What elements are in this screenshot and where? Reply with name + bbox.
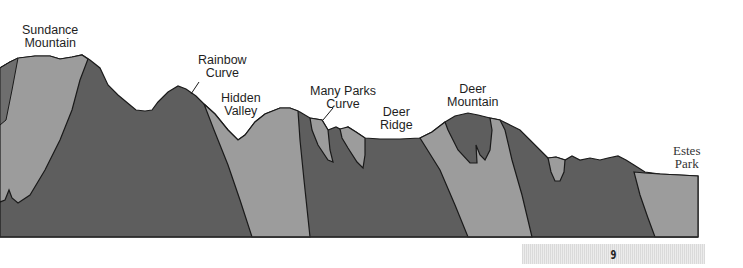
label-deer-ridge: Deer Ridge [380,106,413,132]
label-line: Curve [198,67,247,80]
label-deer-mountain: Deer Mountain [447,83,498,109]
label-many-parks-curve: Many Parks Curve [310,85,376,111]
label-line: Park [673,157,700,170]
label-hidden-valley: Hidden Valley [221,92,261,118]
label-sundance-mountain: Sundance Mountain [22,24,78,50]
label-line: Curve [310,98,376,111]
label-line: Mountain [447,96,498,109]
label-estes-park: Estes Park [673,144,700,170]
cross-section-diagram [0,0,743,268]
label-line: Ridge [380,119,413,132]
label-line: Mountain [22,37,78,50]
page-number-box: 9 [522,244,705,264]
label-rainbow-curve: Rainbow Curve [198,54,247,80]
label-line: Valley [221,105,261,118]
page-number: 9 [611,247,617,262]
leader-line-rainbow [191,82,199,94]
